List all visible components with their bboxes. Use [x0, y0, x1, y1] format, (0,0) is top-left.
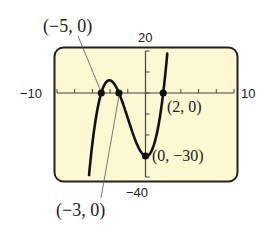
y-max-label: 20 [138, 30, 152, 45]
y-min-label: −40 [126, 185, 148, 200]
point-marker [98, 89, 105, 96]
point-label-2: (2, 0) [167, 98, 202, 116]
point-marker [160, 89, 167, 96]
graphing-calculator-chart: −10 10 20 −40 (−5, 0) (−3, 0) (2, 0) (0,… [0, 0, 275, 228]
point-marker [142, 152, 149, 159]
x-min-label: −10 [20, 86, 42, 101]
point-label-neg5: (−5, 0) [43, 16, 92, 37]
point-label-0-neg30: (0, −30) [152, 147, 204, 165]
point-marker [115, 89, 122, 96]
point-label-neg3: (−3, 0) [56, 200, 105, 221]
x-max-label: 10 [241, 86, 255, 101]
